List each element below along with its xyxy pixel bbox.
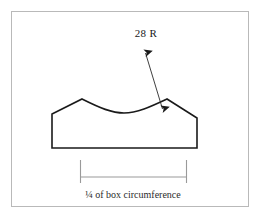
drawing-page: 28 R ¼ of box circumference (0, 0, 268, 221)
dimension-caption: ¼ of box circumference (33, 189, 233, 200)
radius-leader-line (146, 53, 163, 109)
radius-label: 28 R (106, 27, 186, 39)
cross-section-profile-outline (52, 99, 197, 148)
